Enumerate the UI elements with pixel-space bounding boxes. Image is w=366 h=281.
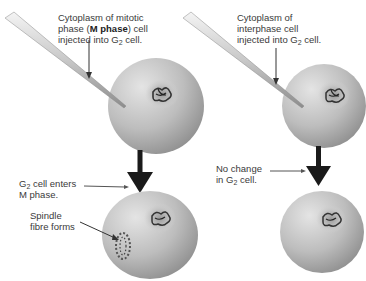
nucleus	[144, 203, 176, 233]
label-text: cell enters	[30, 178, 76, 189]
left-result-label: G2 cell enters M phase.	[19, 178, 76, 200]
left-result-pointer	[84, 186, 125, 187]
label-text: cell.	[302, 34, 322, 45]
label-line: injected into G2 cell.	[237, 34, 321, 45]
label-text: cell.	[237, 174, 257, 185]
label-line: fibre forms	[30, 221, 75, 232]
nucleus	[145, 79, 179, 109]
left-result-pointer-head	[124, 185, 129, 189]
label-line: Cytoplasm of	[237, 12, 321, 23]
label-line: M phase.	[19, 189, 76, 200]
label-line: G2 cell enters	[19, 178, 76, 189]
right-g2-cell-unchanged	[280, 191, 364, 273]
nucleus	[316, 205, 346, 233]
label-line: injected into G2 cell.	[58, 34, 148, 45]
label-line: No change	[216, 163, 262, 174]
right-down-arrow	[306, 146, 331, 186]
label-text: in G	[216, 174, 233, 185]
label-line: in G2 cell.	[216, 174, 262, 185]
label-line: phase (M phase) cell	[58, 23, 148, 34]
label-text: cell.	[123, 34, 143, 45]
left-injection-label: Cytoplasm of mitotic phase (M phase) cel…	[58, 12, 148, 45]
label-line: interphase cell	[237, 23, 321, 34]
left-down-arrow	[127, 150, 153, 193]
left-g2-cell-m-phase	[102, 191, 198, 279]
label-line: Spindle	[30, 210, 75, 221]
spindle-label: Spindle fibre forms	[30, 210, 75, 232]
right-result-label: No change in G2 cell.	[216, 163, 262, 185]
right-injection-label: Cytoplasm of interphase cell injected in…	[237, 12, 321, 45]
right-g2-cell-injected	[282, 64, 366, 148]
label-text: phase (	[58, 23, 90, 34]
label-line: Cytoplasm of mitotic	[58, 12, 148, 23]
label-text: injected into G	[237, 34, 298, 45]
label-text: ) cell	[128, 23, 148, 34]
label-bold-text: M phase	[90, 23, 128, 34]
right-result-pointer-head	[301, 169, 306, 173]
label-text: injected into G	[58, 34, 119, 45]
nucleus	[318, 80, 350, 110]
